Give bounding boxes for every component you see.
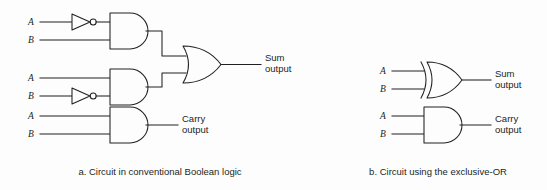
- caption-panel-a: a. Circuit in conventional Boolean logic: [78, 166, 241, 177]
- wire-and-top-to-or: [146, 31, 186, 56]
- input-label-a5: A: [379, 111, 386, 121]
- sum-output-label-line1: Sum: [265, 52, 285, 63]
- not-gate-a-top: [72, 14, 90, 30]
- and-gate-carry-b: [424, 107, 462, 143]
- not-bubble-b-middle: [90, 93, 96, 99]
- input-label-a4: A: [379, 66, 386, 76]
- input-label-b5: B: [380, 129, 386, 139]
- and-gate-top: [110, 13, 148, 49]
- input-label-b2: B: [28, 91, 34, 101]
- half-adder-circuit-figure: A B A B A B Sum output Carry output A B …: [0, 0, 547, 190]
- caption-panel-b: b. Circuit using the exclusive-OR: [369, 166, 507, 177]
- input-label-b3: B: [28, 129, 34, 139]
- or-gate-sum: [183, 46, 221, 83]
- sum-output-label-line2: output: [265, 63, 292, 74]
- carry-output-b-label-line1: Carry: [495, 113, 518, 124]
- xor-gate-sum: [427, 62, 462, 98]
- xor-extra-arc: [421, 62, 426, 98]
- sum-output-b-label-line2: output: [495, 79, 522, 90]
- input-label-a2: A: [27, 73, 34, 83]
- wire-and-middle-to-or: [146, 73, 186, 87]
- sum-output-b-label-line1: Sum: [495, 68, 515, 79]
- not-gate-b-middle: [72, 88, 90, 104]
- and-gate-middle: [110, 69, 148, 105]
- input-label-b4: B: [380, 84, 386, 94]
- input-label-a3: A: [27, 111, 34, 121]
- carry-output-label-line2: output: [182, 124, 209, 135]
- carry-output-b-label-line2: output: [495, 124, 522, 135]
- input-label-a1: A: [27, 17, 34, 27]
- not-bubble-a-top: [90, 19, 96, 25]
- carry-output-label-line1: Carry: [182, 113, 205, 124]
- and-gate-carry: [110, 107, 148, 143]
- input-label-b1: B: [28, 35, 34, 45]
